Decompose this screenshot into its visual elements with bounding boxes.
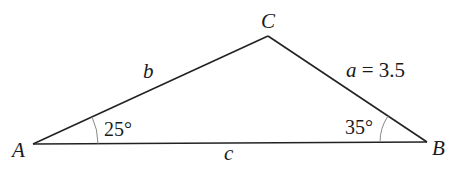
side-label-c: c	[224, 141, 234, 165]
vertex-label-b: B	[432, 136, 445, 160]
side-b	[33, 36, 268, 144]
vertex-label-c: C	[261, 9, 276, 33]
side-label-b: b	[143, 59, 154, 83]
triangle-diagram: C A B b a = 3.5 c 25° 35°	[0, 0, 451, 170]
angle-label-a: 25°	[104, 118, 132, 140]
side-a-value: 3.5	[379, 58, 405, 82]
angle-arc-a	[92, 117, 98, 144]
side-a-variable: a	[346, 58, 357, 82]
vertex-label-a: A	[10, 138, 25, 162]
angle-arc-b	[380, 116, 388, 142]
side-label-a: a = 3.5	[346, 58, 405, 82]
angle-label-b: 35°	[345, 116, 373, 138]
side-a-equals: =	[357, 58, 379, 82]
